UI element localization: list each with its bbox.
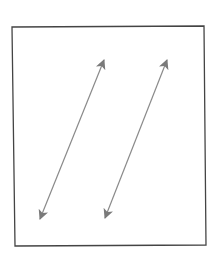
frame-rectangle: [12, 26, 206, 246]
left-arrow: [40, 60, 104, 219]
diagram-canvas: [0, 0, 217, 255]
right-arrow: [105, 60, 167, 218]
arrows-group: [40, 60, 167, 219]
